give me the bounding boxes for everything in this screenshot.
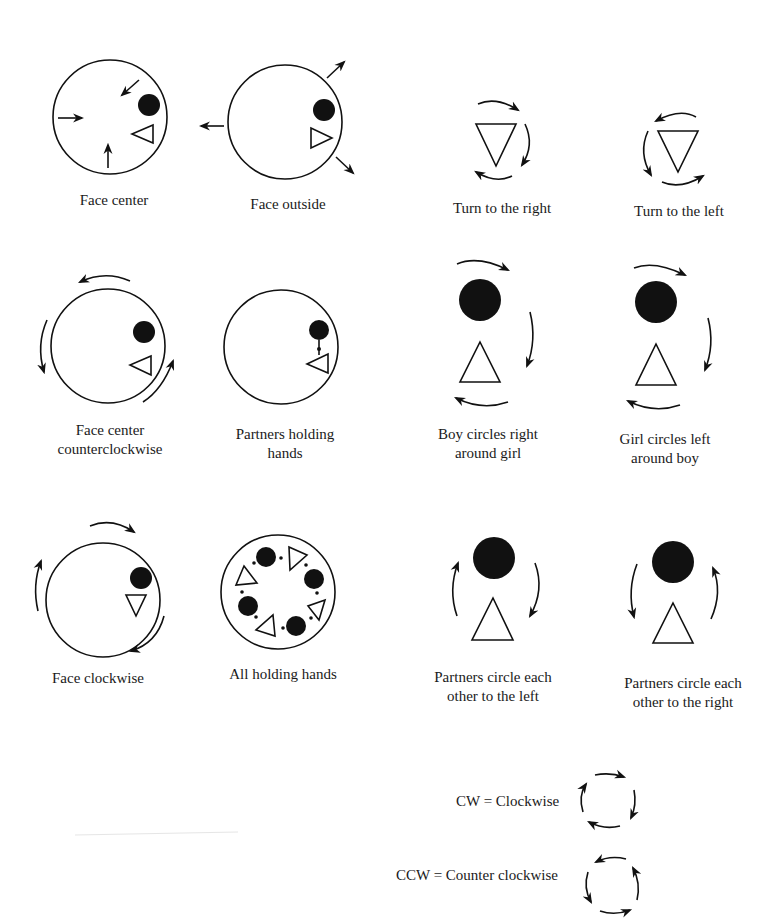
partners-circle-right-label-line2: other to the right (608, 693, 758, 712)
girl-icon (289, 547, 307, 570)
face-clockwise-diagram (36, 523, 164, 657)
partners-circle-right-label-line1: Partners circle each (608, 674, 758, 693)
boy-icon (313, 99, 335, 121)
girl-icon (636, 344, 676, 385)
face-clockwise-label: Face clockwise (42, 669, 154, 688)
boy-icon (459, 279, 501, 321)
boy-icon (309, 320, 329, 340)
face-outside-diagram (201, 62, 353, 179)
boy-icon (473, 537, 515, 579)
turn-right-diagram (476, 101, 529, 179)
partners-holding-hands-diagram (224, 290, 338, 404)
partners-holding-hands-label-line1: Partners holding (220, 425, 350, 444)
boy-icon (238, 596, 258, 616)
girl-icon (472, 598, 513, 640)
girl-icon (256, 615, 275, 636)
boy-circles-right-label-line2: around girl (423, 444, 553, 463)
girl-circles-left-label-line2: around boy (600, 449, 730, 468)
face-center-diagram (53, 60, 167, 174)
boy-icon (635, 281, 677, 323)
boy-icon (256, 547, 276, 567)
girl-icon (311, 128, 332, 148)
partners-circle-left-diagram (453, 537, 539, 640)
ccw-legend-label: CCW = Counter clockwise (396, 866, 558, 885)
girl-icon (126, 595, 146, 616)
girl-icon (130, 356, 151, 375)
boy-circles-right-label-line1: Boy circles right (423, 425, 553, 444)
partners-circle-left-label-line1: Partners circle each (418, 668, 568, 687)
girl-circles-left-label-line1: Girl circles left (600, 430, 730, 449)
clockwise-arrows-icon (581, 774, 635, 827)
girl-icon (236, 566, 257, 585)
boy-icon (652, 541, 694, 583)
partners-circle-left-label-line2: other to the left (418, 687, 568, 706)
boy-icon (304, 569, 324, 589)
partners-holding-hands-label-line2: hands (220, 444, 350, 463)
turn-left-diagram (644, 113, 703, 185)
face-center-ccw-diagram (41, 276, 173, 403)
boy-icon (138, 94, 160, 116)
girl-icon (460, 342, 500, 382)
all-holding-hands-label: All holding hands (218, 665, 348, 684)
counterclockwise-arrows-icon (586, 858, 638, 914)
cw-legend-label: CW = Clockwise (456, 792, 559, 811)
boy-circles-right-diagram (456, 261, 533, 406)
boy-icon (130, 567, 152, 589)
face-center-ccw-label-line2: counterclockwise (40, 440, 180, 459)
girl-icon (132, 125, 153, 143)
partners-circle-right-diagram (631, 541, 717, 643)
boy-icon (133, 321, 155, 343)
face-center-label: Face center (58, 191, 170, 210)
scan-artifact-line (75, 832, 238, 835)
boy-icon (286, 616, 306, 636)
girl-circles-left-diagram (628, 265, 711, 408)
face-center-ccw-label-line1: Face center (40, 421, 180, 440)
turn-left-label: Turn to the left (620, 202, 738, 221)
face-outside-label: Face outside (232, 195, 344, 214)
girl-icon (653, 603, 693, 643)
all-holding-hands-diagram (221, 535, 335, 649)
girl-icon (307, 354, 328, 373)
turn-right-label: Turn to the right (440, 199, 564, 218)
